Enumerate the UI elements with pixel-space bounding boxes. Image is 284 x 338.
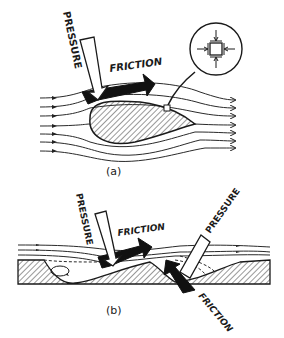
friction-label-b-left: FRICTION [117,221,166,238]
pressure-arrow-b-right [180,235,210,278]
pressure-label-b-left: PRESSURE [74,192,95,246]
airfoil-body [90,101,195,143]
pressure-label-b-right: PRESSURE [203,186,241,235]
fluid-element [164,105,170,111]
ground-surface [18,260,270,284]
caption-a: (a) [106,165,121,178]
friction-label-a: FRICTION [109,56,164,74]
figure-b: PRESSURE FRICTION PRESSURE FRICTION (b) [18,186,270,334]
caption-b: (b) [106,304,122,317]
friction-label-b-right: FRICTION [196,291,235,334]
stress-element-inset [190,23,242,75]
diagram-canvas: PRESSURE FRICTION (a) [0,0,284,338]
figure-a: PRESSURE FRICTION (a) [40,10,242,178]
pressure-arrow-a [80,37,108,100]
